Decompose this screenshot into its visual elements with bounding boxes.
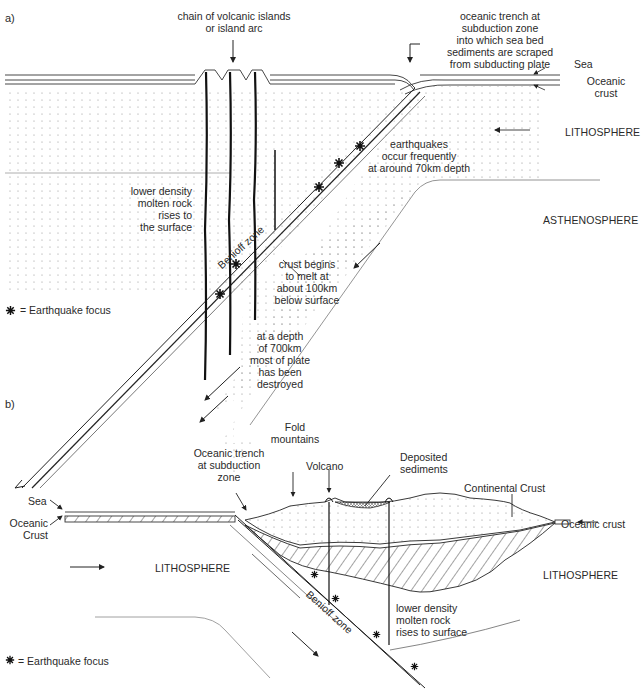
island-arc-label: chain of volcanic islands or island arc: [174, 10, 294, 34]
crust-melt-label: crust begins to melt at about 100km belo…: [270, 258, 344, 306]
oceanic-crust-left-label-b: Oceanic Crust: [4, 517, 48, 541]
part-a-label: a): [5, 12, 15, 24]
oceanic-crust-right-label-b: Oceanic crust: [561, 518, 625, 530]
deposited-sediments-label: Deposited sediments: [400, 451, 448, 475]
asthenosphere-label-a: ASTHENOSPHERE: [543, 214, 638, 226]
subduction-diagram-canvas: [0, 0, 642, 689]
earthquakes-label: earthquakes occur frequently at around 7…: [360, 138, 478, 174]
sea-label-b: Sea: [28, 495, 47, 507]
trench-label: oceanic trench at subduction zone into w…: [430, 10, 570, 70]
lithosphere-right-label-b: LITHOSPHERE: [543, 569, 618, 581]
continental-crust-label: Continental Crust: [464, 482, 545, 494]
volcano-label: Volcano: [306, 460, 343, 472]
legend-earthquake-focus-a: = Earthquake focus: [20, 304, 111, 316]
depth-700-label: at a depth of 700km most of plate has be…: [240, 330, 320, 390]
trench-label-b: Oceanic trench at subduction zone: [185, 447, 273, 483]
fold-mountains-label: Fold mountains: [265, 421, 325, 445]
molten-rock-label-a: lower density molten rock rises to the s…: [80, 185, 192, 233]
molten-rock-label-b: lower density molten rock rises to surfa…: [396, 602, 467, 638]
sea-label-a: Sea: [574, 58, 593, 70]
lithosphere-left-label-b: LITHOSPHERE: [155, 562, 230, 574]
legend-earthquake-focus-b: = Earthquake focus: [18, 655, 109, 667]
oceanic-crust-label-a: Oceanic crust: [578, 75, 634, 99]
lithosphere-label-a: LITHOSPHERE: [565, 126, 640, 138]
part-b-label: b): [5, 398, 15, 410]
